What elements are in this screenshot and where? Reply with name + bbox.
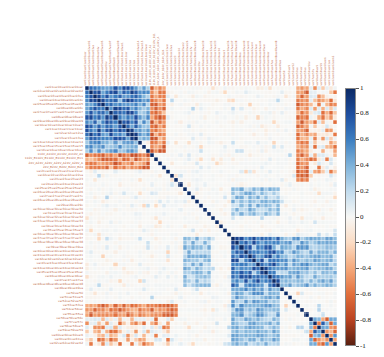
row-label: var38var38var38var38var38var38 bbox=[33, 241, 83, 244]
column-label: var22var22var22var22var22va bbox=[171, 45, 174, 86]
row-labels: var01var01var01var01varvar02var02var02va… bbox=[0, 86, 84, 346]
column-label: 24V_A24V_A24V_A24V_A24V_A24V_A bbox=[159, 37, 162, 86]
column-label: var36var36var36var36var36var36 bbox=[228, 41, 231, 86]
colorbar-tick-text: -0.2 bbox=[360, 238, 371, 247]
colorbar bbox=[345, 88, 356, 346]
row-label: var28var28var28var28var28var28 bbox=[33, 199, 83, 202]
column-label: var54var54var bbox=[301, 67, 304, 86]
row-label: var49var49var49va bbox=[54, 287, 83, 290]
colorbar-tick-text: 0.2 bbox=[360, 187, 369, 196]
column-label: var07var07var07var07var07var07 bbox=[110, 41, 113, 86]
column-label: var35var35var35var35var3 bbox=[224, 50, 227, 86]
correlation-heatmap-figure: var01var01var01var01varvar02var02var02va… bbox=[0, 0, 384, 357]
colorbar-tick-mark bbox=[356, 268, 359, 269]
row-label: var43var43var43var43var43var bbox=[37, 262, 83, 265]
column-label: var08var08var08var0 bbox=[114, 58, 117, 86]
colorbar-tick-mark bbox=[356, 139, 359, 140]
column-label: var34var34var34var34var34 bbox=[220, 49, 223, 86]
column-label: var06var06var06v bbox=[106, 62, 109, 86]
colorbar-tick-mark bbox=[356, 242, 359, 243]
row-label: var44var44var44var44var44var44 bbox=[33, 267, 83, 270]
column-label: var51var51var5 bbox=[289, 65, 292, 86]
colorbar-tick-labels: 10.80.60.40.20-0.2-0.4-0.6-0.8-1 bbox=[356, 88, 382, 346]
colorbar-tick-text: -1 bbox=[360, 342, 366, 351]
row-label: var12var12var12va bbox=[54, 132, 83, 135]
colorbar-tick-mark bbox=[356, 191, 359, 192]
heatmap-canvas[interactable] bbox=[85, 86, 337, 346]
colorbar-tick-mark bbox=[356, 217, 359, 218]
colorbar-tick-text: -0.4 bbox=[360, 264, 371, 273]
column-label: var04var04var04var04var04v bbox=[98, 47, 101, 86]
row-label: var54var54var bbox=[62, 308, 83, 311]
colorbar-tick-text: 0.8 bbox=[360, 109, 369, 118]
row-label: var62var62var62var62 bbox=[50, 342, 83, 345]
column-label: var37var37var37var37var37var37 bbox=[232, 41, 235, 86]
column-label: var62var62var62var62 bbox=[334, 56, 337, 86]
colorbar-gradient bbox=[346, 89, 355, 345]
row-label: var13var13var13va bbox=[54, 137, 83, 140]
row-label: var07var07var07var07var07var07 bbox=[33, 111, 83, 114]
colorbar-tick-mark bbox=[356, 320, 359, 321]
colorbar-tick-text: 0.4 bbox=[360, 161, 369, 170]
column-label: 24V_B24V_B24V_B24V_B24 bbox=[163, 50, 166, 86]
column-labels: var01var01var01var01varvar02var02var02va… bbox=[85, 0, 337, 86]
row-label: var59var59var59 bbox=[58, 329, 83, 332]
colorbar-tick-mark bbox=[356, 346, 359, 347]
heatmap-matrix[interactable] bbox=[85, 86, 337, 346]
column-label: var53var53va bbox=[297, 68, 300, 86]
column-label: var50var50 bbox=[285, 71, 288, 86]
colorbar-tick-mark bbox=[356, 294, 359, 295]
colorbar-tick-text: 0 bbox=[360, 213, 364, 222]
column-label: var39var39var39var39va bbox=[240, 53, 243, 86]
column-label: var38var38var38var38var38var38 bbox=[236, 41, 239, 86]
colorbar-tick-text: -0.8 bbox=[360, 316, 371, 325]
row-label: var02var02var02var02var02var02 bbox=[33, 90, 83, 93]
column-label: var21var21var21var21var21var bbox=[167, 44, 170, 86]
colorbar-tick-mark bbox=[356, 165, 359, 166]
row-label: var23var23var23var23 bbox=[50, 178, 83, 181]
row-label: var33var33var33var33var33var33 bbox=[33, 220, 83, 223]
column-label: var52var52var52 bbox=[293, 64, 296, 86]
colorbar-tick-text: -0.6 bbox=[360, 290, 371, 299]
colorbar-tick-mark bbox=[356, 113, 359, 114]
colorbar-tick-mark bbox=[356, 88, 359, 89]
colorbar-tick-text: 1 bbox=[360, 84, 364, 93]
row-label: 110V_B110V_B110V_B110V_B110V_B11 bbox=[25, 157, 83, 160]
column-label: var03var03var03var03var03va bbox=[94, 45, 97, 86]
column-label: var23var23var23var23 bbox=[175, 56, 178, 86]
colorbar-tick-text: 0.6 bbox=[360, 135, 369, 144]
column-label: var05var05var05var05var05var05 bbox=[102, 41, 105, 86]
